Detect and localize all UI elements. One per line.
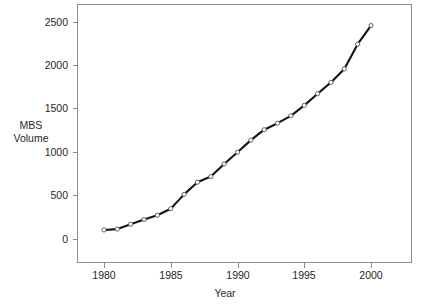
data-point — [329, 80, 333, 84]
data-point — [182, 192, 186, 196]
data-point — [115, 227, 119, 231]
data-point — [249, 138, 253, 142]
y-tick-label-2000: 2000 — [45, 59, 69, 71]
data-point — [316, 92, 320, 96]
x-tick-labels: 1980 1985 1990 1995 2000 — [92, 269, 383, 281]
y-tick-label-1500: 1500 — [45, 102, 69, 114]
data-point — [195, 180, 199, 184]
data-point — [169, 207, 173, 211]
y-tick-label-1000: 1000 — [45, 146, 69, 158]
y-axis-title: MBS Volume — [13, 119, 48, 144]
data-point — [209, 174, 213, 178]
x-tick-label-1985: 1985 — [159, 269, 183, 281]
data-point — [222, 162, 226, 166]
y-tick-marks — [73, 23, 78, 240]
line-chart-canvas: 2500 2000 1500 1000 500 0 1980 1985 1990… — [0, 0, 422, 307]
series-line-mbs-volume — [104, 26, 371, 230]
data-point — [356, 42, 360, 46]
data-point — [155, 213, 159, 217]
y-tick-label-2500: 2500 — [45, 16, 69, 28]
data-point — [302, 103, 306, 107]
plot-frame — [78, 5, 412, 263]
data-point — [289, 114, 293, 118]
chart-figure: 2500 2000 1500 1000 500 0 1980 1985 1990… — [0, 0, 422, 307]
x-tick-label-1995: 1995 — [292, 269, 316, 281]
x-tick-label-1990: 1990 — [226, 269, 250, 281]
x-tick-label-2000: 2000 — [359, 269, 383, 281]
series-markers-mbs-volume — [102, 23, 373, 232]
data-point — [102, 228, 106, 232]
x-axis-title: Year — [214, 287, 236, 299]
data-point — [142, 217, 146, 221]
data-point — [275, 121, 279, 125]
data-point — [129, 222, 133, 226]
data-point — [369, 23, 373, 27]
x-tick-marks — [105, 263, 372, 268]
y-tick-label-500: 500 — [50, 189, 68, 201]
data-point — [262, 128, 266, 132]
data-point — [235, 150, 239, 154]
x-tick-label-1980: 1980 — [92, 269, 116, 281]
y-axis-title-line-1: MBS — [20, 119, 43, 131]
y-axis-title-line-2: Volume — [13, 132, 48, 144]
y-tick-labels: 2500 2000 1500 1000 500 0 — [45, 16, 69, 245]
y-tick-label-0: 0 — [62, 233, 68, 245]
data-point — [342, 67, 346, 71]
